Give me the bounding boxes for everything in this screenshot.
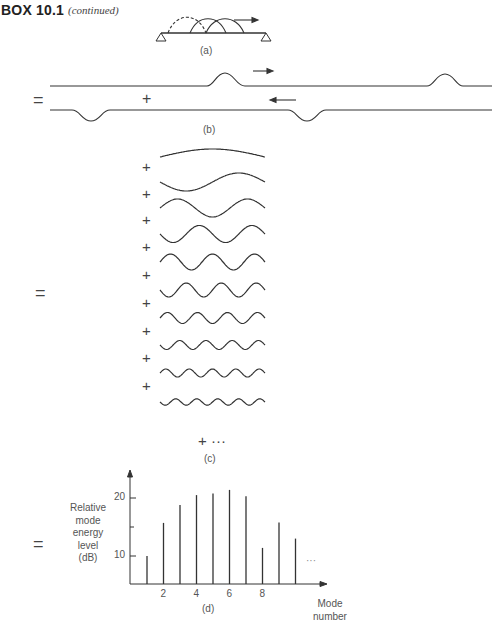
x-tick-label: 8 xyxy=(260,588,266,599)
x-tick-label: 2 xyxy=(161,588,167,599)
y-tick-label: 10 xyxy=(114,549,125,560)
x-tick-label: 6 xyxy=(227,588,233,599)
x-axis-arrow-icon xyxy=(320,582,327,587)
panel-d-label: (d) xyxy=(202,603,214,614)
chart-ellipsis: ··· xyxy=(306,555,316,566)
y-axis-arrow-icon xyxy=(128,470,133,477)
y-tick-label: 20 xyxy=(114,491,125,502)
bar-chart xyxy=(0,0,501,627)
x-tick-label: 4 xyxy=(194,588,200,599)
